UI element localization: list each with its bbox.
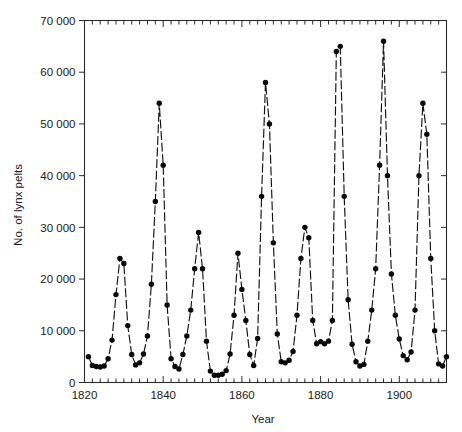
data-point — [231, 313, 236, 318]
data-point — [239, 287, 244, 292]
data-point — [129, 352, 134, 357]
chart-canvas: 18201840186018801900 010 00020 00030 000… — [0, 0, 462, 432]
data-point — [373, 266, 378, 271]
lynx-series-line — [88, 41, 446, 375]
data-point — [153, 199, 158, 204]
data-point — [196, 230, 201, 235]
data-point — [444, 354, 449, 359]
data-point — [251, 363, 256, 368]
data-point — [416, 173, 421, 178]
data-point — [432, 328, 437, 333]
data-point — [353, 359, 358, 364]
y-tick-label: 10 000 — [40, 325, 75, 337]
data-point — [408, 349, 413, 354]
data-point — [86, 354, 91, 359]
data-point — [290, 349, 295, 354]
data-point — [349, 342, 354, 347]
y-tick-label: 30 000 — [40, 222, 75, 234]
data-point — [117, 256, 122, 261]
data-point — [145, 333, 150, 338]
data-point — [306, 235, 311, 240]
y-tick-label: 0 — [69, 377, 75, 389]
x-tick-label: 1860 — [229, 389, 255, 401]
data-point — [109, 337, 114, 342]
data-point — [101, 363, 106, 368]
data-point — [113, 292, 118, 297]
x-tick-label: 1900 — [386, 389, 412, 401]
data-point — [377, 163, 382, 168]
data-point — [200, 266, 205, 271]
data-point — [149, 282, 154, 287]
data-point — [302, 225, 307, 230]
data-point — [397, 336, 402, 341]
data-point — [137, 360, 142, 365]
data-point — [338, 44, 343, 49]
data-point — [404, 357, 409, 362]
lynx-pelts-chart-figure: 18201840186018801900 010 00020 00030 000… — [0, 0, 462, 432]
y-axis-title: No. of lynx pelts — [12, 164, 24, 246]
data-point — [385, 173, 390, 178]
data-point — [141, 351, 146, 356]
x-tick-label: 1820 — [72, 389, 98, 401]
data-point — [168, 356, 173, 361]
data-point — [310, 318, 315, 323]
data-point — [208, 368, 213, 373]
data-point — [330, 318, 335, 323]
x-tick-label: 1840 — [150, 389, 176, 401]
data-point — [223, 368, 228, 373]
data-point — [440, 363, 445, 368]
data-point — [381, 38, 386, 43]
y-tick-label: 70 000 — [40, 15, 75, 27]
data-point — [227, 351, 232, 356]
data-point — [389, 271, 394, 276]
y-axis-tick-labels: 010 00020 00030 00040 00050 00060 00070 … — [40, 15, 75, 389]
data-point — [125, 323, 130, 328]
y-tick-label: 50 000 — [40, 118, 75, 130]
data-point — [243, 318, 248, 323]
data-point — [275, 331, 280, 336]
x-axis-title: Year — [251, 413, 274, 425]
data-point — [326, 338, 331, 343]
y-tick-label: 20 000 — [40, 273, 75, 285]
data-point — [334, 49, 339, 54]
y-tick-label: 60 000 — [40, 66, 75, 78]
data-point — [412, 307, 417, 312]
data-point — [255, 336, 260, 341]
x-axis-tick-labels: 18201840186018801900 — [72, 389, 412, 401]
data-point — [286, 358, 291, 363]
data-point — [259, 194, 264, 199]
data-point — [157, 101, 162, 106]
data-point — [369, 307, 374, 312]
x-axis-ticks — [85, 21, 447, 383]
data-point — [180, 352, 185, 357]
data-point — [188, 307, 193, 312]
data-point — [204, 338, 209, 343]
data-point — [298, 256, 303, 261]
data-point — [263, 80, 268, 85]
data-point — [164, 302, 169, 307]
data-point — [235, 251, 240, 256]
data-point — [121, 261, 126, 266]
data-point — [401, 353, 406, 358]
data-point — [428, 256, 433, 261]
data-point — [271, 240, 276, 245]
data-point — [361, 362, 366, 367]
data-point — [267, 121, 272, 126]
data-point — [393, 313, 398, 318]
data-point — [294, 313, 299, 318]
data-point — [424, 132, 429, 137]
data-point — [192, 266, 197, 271]
data-point — [247, 352, 252, 357]
data-point — [420, 101, 425, 106]
data-point — [345, 297, 350, 302]
data-point — [365, 338, 370, 343]
lynx-series-points — [86, 38, 449, 377]
data-point — [176, 366, 181, 371]
plot-frame — [85, 21, 447, 383]
data-point — [161, 163, 166, 168]
data-point — [342, 194, 347, 199]
x-tick-label: 1880 — [308, 389, 334, 401]
data-point — [184, 333, 189, 338]
y-axis-ticks — [79, 21, 447, 383]
y-tick-label: 40 000 — [40, 170, 75, 182]
